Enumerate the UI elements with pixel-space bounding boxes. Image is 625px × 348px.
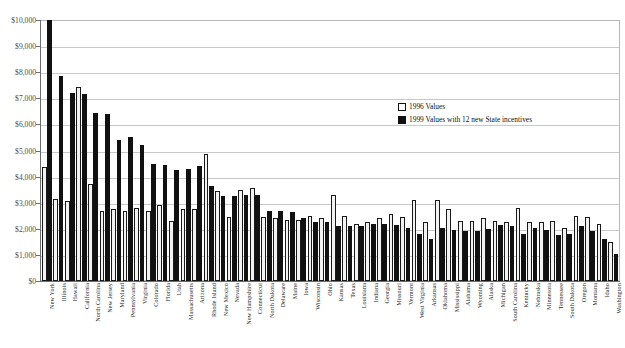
legend-swatch-solid-icon <box>398 116 406 124</box>
x-tick-label: Maryland <box>118 283 125 308</box>
bar-group <box>284 20 296 281</box>
bar-group <box>307 20 319 281</box>
bar-1996 <box>42 167 47 281</box>
x-tick-label: Rhode Island <box>210 283 217 317</box>
bar-group <box>99 20 111 281</box>
x-tick-label: Arkansas <box>430 283 437 307</box>
bar-1996 <box>550 221 555 281</box>
bar-group <box>388 20 400 281</box>
bar-group <box>53 20 65 281</box>
bar-1999 <box>371 224 376 281</box>
y-tick-label: $10,000 <box>0 16 36 25</box>
bar-1999 <box>359 226 364 281</box>
x-tick-label: Virginia <box>141 283 148 304</box>
x-tick-label: Utah <box>175 283 182 295</box>
bar-chart: $10,000$9,000$8,000$7,000$6,000$5,000$4,… <box>0 0 625 348</box>
bar-1999 <box>140 145 145 281</box>
bar-1999 <box>301 218 306 281</box>
bar-series-container <box>41 20 619 281</box>
bar-1999 <box>163 165 168 281</box>
bar-1999 <box>452 230 457 281</box>
bar-group <box>226 20 238 281</box>
bar-1996 <box>574 216 579 281</box>
bar-1999 <box>59 76 64 281</box>
bar-1996 <box>400 217 405 281</box>
bar-group <box>41 20 53 281</box>
bar-group <box>446 20 458 281</box>
bar-1996 <box>493 221 498 281</box>
bar-1996 <box>562 228 567 282</box>
x-tick-label: Wyoming <box>476 283 483 308</box>
x-tick-label: Oregon <box>580 283 587 302</box>
x-tick-label: Alabama <box>464 283 471 306</box>
x-tick-label: Vermont <box>407 283 414 305</box>
bar-group <box>411 20 423 281</box>
bar-group <box>318 20 330 281</box>
bar-1996 <box>470 221 475 281</box>
y-axis: $10,000$9,000$8,000$7,000$6,000$5,000$4,… <box>0 0 40 348</box>
x-tick-label: Ohio <box>326 283 333 296</box>
x-tick-label: Wisconsin <box>314 283 321 310</box>
chart-legend: 1996 Values 1999 Values with 12 new Stat… <box>398 103 532 129</box>
bar-1999 <box>105 114 110 281</box>
x-tick-label: Georgia <box>383 283 390 304</box>
bar-1999 <box>463 231 468 281</box>
bar-1999 <box>47 20 52 281</box>
bar-group <box>110 20 122 281</box>
bar-group <box>342 20 354 281</box>
bar-group <box>515 20 527 281</box>
bar-1996 <box>285 220 290 281</box>
x-tick-label: Connecticut <box>256 283 263 314</box>
x-tick-label: Pennsylvania <box>129 283 136 317</box>
bar-1999 <box>567 234 572 281</box>
bar-group <box>434 20 446 281</box>
bar-group <box>145 20 157 281</box>
bar-1999 <box>406 228 411 282</box>
bar-1996 <box>481 218 486 281</box>
bar-group <box>550 20 562 281</box>
x-tick-label: Washington <box>615 283 622 313</box>
x-tick-label: Nevada <box>233 283 240 303</box>
bar-group <box>214 20 226 281</box>
bar-1996 <box>389 214 394 281</box>
x-tick-label: Hawaii <box>71 283 78 301</box>
bar-group <box>122 20 134 281</box>
bar-1999 <box>197 166 202 281</box>
bar-1996 <box>65 201 70 281</box>
bar-1999 <box>186 169 191 281</box>
x-tick-label: Oklahoma <box>441 283 448 310</box>
legend-label-1999: 1999 Values with 12 new State incentives <box>409 116 532 123</box>
bar-group <box>272 20 284 281</box>
bar-1999 <box>394 225 399 281</box>
y-tick-label: $3,000 <box>0 198 36 207</box>
bar-1996 <box>238 190 243 281</box>
bar-1999 <box>70 93 75 281</box>
bar-1996 <box>250 188 255 281</box>
bar-group <box>480 20 492 281</box>
x-tick-label: Illinois <box>60 283 67 301</box>
bar-group <box>469 20 481 281</box>
bar-1999 <box>382 224 387 281</box>
x-tick-label: Maine <box>291 283 298 299</box>
bar-1996 <box>342 216 347 281</box>
bar-1996 <box>365 222 370 281</box>
bar-1996 <box>319 218 324 281</box>
bar-1999 <box>429 239 434 281</box>
bar-1996 <box>88 184 93 281</box>
bar-group <box>457 20 469 281</box>
bar-1996 <box>423 222 428 281</box>
bar-group <box>261 20 273 281</box>
bar-group <box>157 20 169 281</box>
bar-group <box>330 20 342 281</box>
bar-group <box>422 20 434 281</box>
bar-1999 <box>267 211 272 281</box>
bar-1999 <box>614 254 619 281</box>
x-tick-label: Arizona <box>198 283 205 304</box>
legend-item-1999: 1999 Values with 12 new State incentives <box>398 116 532 124</box>
bar-1996 <box>227 217 232 281</box>
bar-1996 <box>204 154 209 281</box>
bar-1999 <box>244 195 249 281</box>
bar-1996 <box>331 195 336 281</box>
bar-1996 <box>273 218 278 281</box>
x-tick-label: Delaware <box>279 283 286 308</box>
